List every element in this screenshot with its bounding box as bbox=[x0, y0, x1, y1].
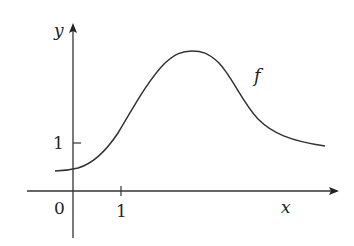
origin-label: 0 bbox=[54, 198, 65, 218]
curve-f bbox=[55, 51, 325, 171]
y-tick-1-label: 1 bbox=[53, 133, 64, 153]
x-axis-label: x bbox=[281, 197, 291, 217]
y-axis-label: y bbox=[53, 20, 64, 40]
curve-label-f: f bbox=[252, 65, 264, 86]
chart: y x 0 1 1 f bbox=[0, 0, 354, 246]
x-tick-1-label: 1 bbox=[116, 201, 127, 221]
